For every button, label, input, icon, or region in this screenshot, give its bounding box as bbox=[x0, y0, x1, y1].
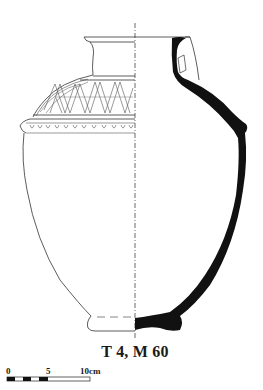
exterior-half bbox=[20, 37, 190, 331]
scale-tick-10: 10cm bbox=[80, 366, 101, 376]
scale-tick-5: 5 bbox=[46, 366, 51, 376]
zigzag-decoration bbox=[40, 82, 133, 113]
vessel-label: T 4, M 60 bbox=[0, 343, 263, 361]
ovule-decoration bbox=[30, 125, 133, 128]
vessel-drawing bbox=[0, 0, 263, 390]
scale-bar bbox=[7, 377, 90, 381]
scale-tick-0: 0 bbox=[6, 366, 11, 376]
section-half bbox=[135, 37, 247, 331]
